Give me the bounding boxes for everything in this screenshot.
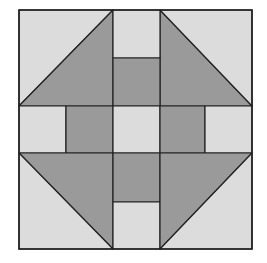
mid-left-light — [19, 106, 66, 153]
mid-left-dark — [66, 106, 113, 153]
mid-right-dark — [160, 106, 205, 153]
bottom-center-dark — [113, 153, 160, 202]
top-center-light — [113, 10, 160, 58]
bottom-center-light — [113, 202, 160, 249]
top-center-dark — [113, 58, 160, 106]
mid-right-light — [205, 106, 252, 153]
quilt-block-diagram — [0, 0, 267, 263]
quilt-pieces — [19, 10, 252, 249]
center-light — [113, 106, 160, 153]
